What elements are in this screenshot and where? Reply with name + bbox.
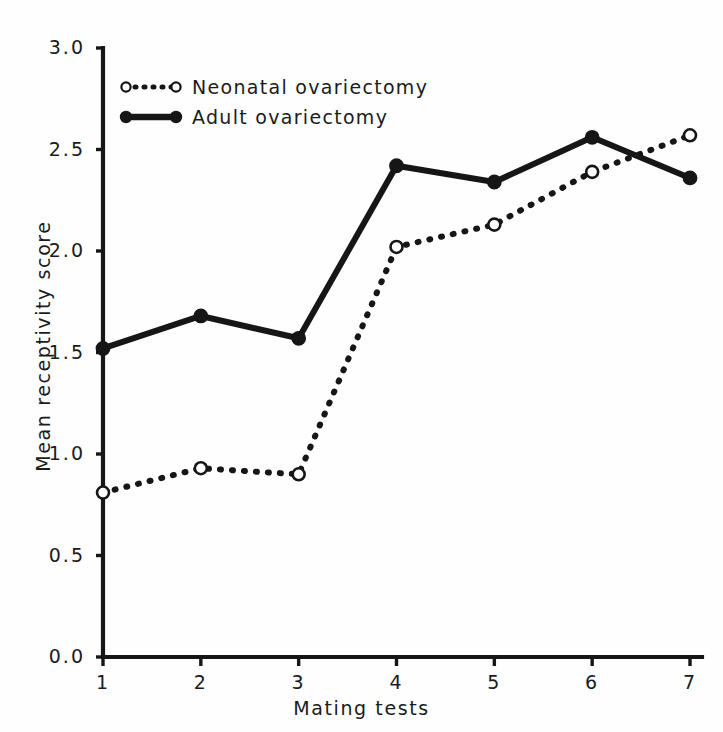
legend-label-adult: Adult ovariectomy: [192, 106, 388, 128]
data-point-s1-x5: [488, 219, 500, 231]
data-point-s2-x1: [97, 342, 110, 355]
data-series: [97, 129, 697, 498]
chart-figure: 3.02.52.01.51.00.50.0 1234567 Mean recep…: [0, 0, 723, 732]
data-point-s2-x2: [194, 310, 207, 323]
y-tick-label: 0.5: [15, 544, 85, 566]
series-line-1: [103, 135, 690, 492]
legend-label-neonatal: Neonatal ovariectomy: [192, 76, 428, 98]
data-point-s2-x5: [488, 176, 501, 189]
data-point-s1-x6: [586, 166, 598, 178]
x-tick-label: 1: [83, 671, 123, 693]
x-tick-label: 6: [572, 671, 612, 693]
y-tick-label: 2.5: [15, 138, 85, 160]
data-point-s2-x4: [390, 159, 403, 172]
data-point-s1-x7: [684, 129, 696, 141]
data-point-s2-x3: [292, 332, 305, 345]
legend-item-adult: Adult ovariectomy: [118, 102, 448, 132]
legend-marker-filled-circle-solid: [118, 106, 186, 128]
y-tick-label: 3.0: [15, 36, 85, 58]
data-point-s2-x7: [684, 172, 697, 185]
data-point-s2-x6: [586, 131, 599, 144]
y-tick-label: 0.0: [15, 645, 85, 667]
data-point-s1-x2: [195, 462, 207, 474]
legend-item-neonatal: Neonatal ovariectomy: [118, 72, 448, 102]
data-point-s1-x3: [293, 468, 305, 480]
x-tick-label: 7: [670, 671, 710, 693]
legend-marker-open-circle-dotted: [118, 76, 186, 98]
x-tick-label: 3: [279, 671, 319, 693]
x-tick-label: 5: [474, 671, 514, 693]
x-axis-title: Mating tests: [0, 697, 723, 719]
x-tick-label: 4: [377, 671, 417, 693]
x-tick-label: 2: [181, 671, 221, 693]
data-point-s1-x4: [391, 241, 403, 253]
data-point-s1-x1: [97, 487, 109, 499]
y-axis-title: Mean receptivity score: [32, 181, 54, 511]
axes-lines: [103, 48, 702, 657]
chart-legend: Neonatal ovariectomy Adult ovariectomy: [118, 72, 448, 132]
